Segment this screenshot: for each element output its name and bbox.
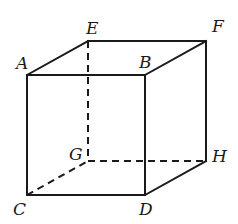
vertex-label-e: E <box>85 18 99 38</box>
hidden-edge-CG <box>27 161 88 195</box>
edge-AE <box>27 41 88 75</box>
vertex-label-a: A <box>14 53 28 73</box>
vertex-label-f: F <box>211 16 225 36</box>
vertex-label-c: C <box>13 199 26 219</box>
visible-edges <box>27 41 206 195</box>
vertex-label-g: G <box>69 144 83 164</box>
edge-BF <box>145 41 206 75</box>
edge-DH <box>145 161 206 195</box>
vertex-label-d: D <box>138 199 153 219</box>
hidden-edges <box>27 41 206 195</box>
cube-diagram: A B C D E F G H <box>0 0 238 224</box>
vertex-label-h: H <box>211 146 228 166</box>
vertex-label-b: B <box>138 52 152 72</box>
